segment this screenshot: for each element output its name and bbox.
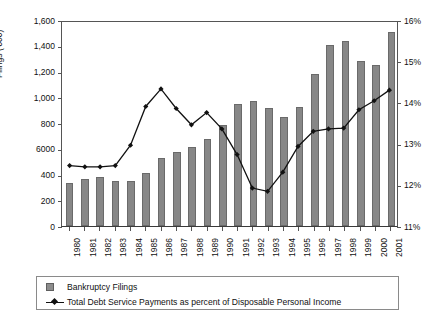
x-tick (130, 227, 131, 231)
x-tick-label-1999: 1999 (363, 238, 373, 257)
line-point-1980 (67, 163, 72, 168)
bar-swatch-icon (46, 283, 54, 291)
x-tick (360, 227, 361, 231)
x-tick-label-1980: 1980 (72, 238, 82, 257)
x-tick (314, 227, 315, 231)
x-tick (329, 227, 330, 231)
y-tick-label-left: 400 (14, 171, 55, 180)
y-tick-label-right: 11% (404, 223, 420, 232)
x-tick (222, 227, 223, 231)
legend-item-bankruptcy-filings: Bankruptcy Filings (46, 280, 137, 294)
x-tick (191, 227, 192, 231)
line-series-layer (62, 22, 397, 226)
x-tick (207, 227, 208, 231)
x-tick (237, 227, 238, 231)
x-tick-label-1981: 1981 (88, 238, 98, 257)
x-tick (375, 227, 376, 231)
y-tick-label-left: 200 (14, 197, 55, 206)
y-tick-left (58, 21, 62, 22)
y-tick-label-right: 13% (404, 140, 421, 149)
y-tick-left (58, 47, 62, 48)
x-tick-label-2001: 2001 (394, 238, 404, 257)
y-tick-label-left: 0 (14, 223, 55, 232)
x-tick-label-1987: 1987 (179, 238, 189, 257)
y-tick-left (58, 201, 62, 202)
y-tick-label-left: 1,000 (14, 94, 55, 103)
y-tick-left (58, 227, 62, 228)
x-tick-label-1983: 1983 (118, 238, 128, 257)
x-tick (390, 227, 391, 231)
plot-area (61, 21, 398, 227)
x-tick-label-1998: 1998 (348, 238, 358, 257)
x-tick (176, 227, 177, 231)
x-tick (344, 227, 345, 231)
y-tick-label-right: 12% (404, 181, 421, 190)
x-tick (298, 227, 299, 231)
y-tick-label-right: 15% (404, 58, 421, 67)
legend-item-debt-service: Total Debt Service Payments as percent o… (46, 295, 341, 309)
y-tick-label-left: 800 (14, 120, 55, 129)
x-tick-label-1986: 1986 (164, 238, 174, 257)
y-tick-label-left: 6000 (14, 145, 55, 154)
y-tick-left (58, 124, 62, 125)
x-tick (115, 227, 116, 231)
x-tick-label-1993: 1993 (271, 238, 281, 257)
y-tick-right (397, 21, 401, 22)
x-tick-label-1994: 1994 (287, 238, 297, 257)
chart-legend: Bankruptcy Filings Total Debt Service Pa… (36, 276, 399, 310)
y-tick-label-right: 16% (404, 17, 421, 26)
y-tick-right (397, 145, 401, 146)
y-tick-right (397, 186, 401, 187)
x-tick-label-1997: 1997 (333, 238, 343, 257)
y-tick-right (397, 62, 401, 63)
legend-label: Total Debt Service Payments as percent o… (67, 297, 341, 307)
x-tick-label-1989: 1989 (210, 238, 220, 257)
x-tick (84, 227, 85, 231)
x-tick-label-1992: 1992 (256, 238, 266, 257)
x-tick-label-1985: 1985 (149, 238, 159, 257)
x-tick (268, 227, 269, 231)
line-point-1997 (326, 126, 331, 131)
line-marker-icon (46, 298, 64, 306)
legend-label: Bankruptcy Filings (67, 282, 137, 292)
line-point-1981 (82, 164, 87, 169)
y-tick-label-left: 1,600 (14, 17, 55, 26)
y-tick-label-left: 1,200 (14, 68, 55, 77)
y-tick-label-right: 14% (404, 99, 421, 108)
y-tick-left (58, 150, 62, 151)
x-tick-label-1991: 1991 (241, 238, 251, 257)
x-tick-label-1990: 1990 (225, 238, 235, 257)
x-tick-label-2000: 2000 (379, 238, 389, 257)
x-tick (283, 227, 284, 231)
line-point-1992 (250, 185, 255, 190)
y-tick-left (58, 176, 62, 177)
y-tick-left (58, 73, 62, 74)
x-tick (252, 227, 253, 231)
y-tick-right (397, 227, 401, 228)
x-tick (145, 227, 146, 231)
line-point-1982 (97, 164, 102, 169)
x-tick (69, 227, 70, 231)
bankruptcy-filings-chart: Filings ('000) 020040060008001,0001,2001… (0, 0, 438, 319)
x-tick-label-1982: 1982 (103, 238, 113, 257)
x-tick-label-1996: 1996 (317, 238, 327, 257)
x-tick (99, 227, 100, 231)
debt-service-line (70, 89, 390, 191)
y-tick-right (397, 103, 401, 104)
x-tick-label-1984: 1984 (134, 238, 144, 257)
x-tick (161, 227, 162, 231)
y-tick-label-left: 1,400 (14, 42, 55, 51)
y-tick-left (58, 98, 62, 99)
x-tick-label-1995: 1995 (302, 238, 312, 257)
x-tick-label-1988: 1988 (195, 238, 205, 257)
y-axis-title: Filings ('000) (0, 30, 4, 78)
